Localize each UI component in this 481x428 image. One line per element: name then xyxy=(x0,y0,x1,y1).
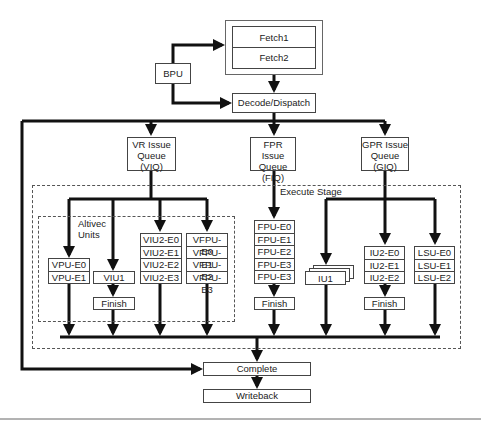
vfpu-pipeline: VFPU-E0 VFPU-E1 VFPU-E2 VFPU-E3 xyxy=(186,233,228,284)
lsu-stage: LSU-E0 xyxy=(415,247,454,260)
complete-box: Complete xyxy=(203,362,311,376)
vpu-pipeline: VPU-E0 VPU-E1 xyxy=(48,258,90,284)
viu1-pipeline: VIU1 xyxy=(93,271,135,284)
viu2-stage: VIU2-E3 xyxy=(141,272,181,285)
fpu-stage: FPU-E3 xyxy=(255,259,294,272)
viu2-stage: VIU2-E2 xyxy=(141,259,181,272)
fpu-stage: FPU-E0 xyxy=(255,221,294,234)
fpu-stage: FPU-E3 xyxy=(255,271,294,284)
altivec-label-line-2: Units xyxy=(78,229,106,240)
iu2-stage: IU2-E2 xyxy=(365,272,404,285)
gpr-issue-queue: GPR Issue Queue (GIQ) xyxy=(361,137,409,171)
iu2-pipeline: IU2-E0 IU2-E1 IU2-E2 xyxy=(364,246,405,284)
vpu-stage: VPU-E0 xyxy=(49,259,89,272)
viq-line-2: Queue xyxy=(128,150,175,161)
iu1-stage: IU1 xyxy=(306,272,345,285)
writeback-box: Writeback xyxy=(203,389,311,403)
viu2-stage: VIU2-E1 xyxy=(141,247,181,260)
fetch-stages: Fetch1 Fetch2 xyxy=(232,26,316,69)
vfpu-stage: VFPU-E3 xyxy=(187,272,227,285)
fiq-line-2: Queue xyxy=(251,161,295,172)
viq-line-1: VR Issue xyxy=(128,139,175,150)
fpu-stage: FPU-E1 xyxy=(255,234,294,247)
execute-stage-label: Execute Stage xyxy=(278,186,344,197)
altivec-units-label: Altivec Units xyxy=(78,218,106,240)
iu2-stage: IU2-E1 xyxy=(365,260,404,273)
fiq-line-3: (FIQ) xyxy=(251,172,295,183)
viu2-pipeline: VIU2-E0 VIU2-E1 VIU2-E2 VIU2-E3 xyxy=(140,233,182,284)
iu2-stage: IU2-E0 xyxy=(365,247,404,260)
bpu-box: BPU xyxy=(155,63,191,84)
giq-line-2: Queue xyxy=(362,150,408,161)
vfpu-stage: VFPU-E1 xyxy=(187,247,227,260)
giq-line-1: GPR Issue xyxy=(362,139,408,150)
viq-line-3: (VIQ) xyxy=(128,161,175,172)
fiq-line-1: FPR Issue xyxy=(251,139,295,161)
fpu-pipeline: FPU-E0 FPU-E1 FPU-E2 FPU-E3 FPU-E3 xyxy=(254,220,295,284)
lsu-stage: LSU-E2 xyxy=(415,272,454,285)
viu1-stage: VIU1 xyxy=(94,272,134,285)
iu1-pipeline: IU1 xyxy=(305,271,346,285)
fpu-finish: Finish xyxy=(254,297,295,310)
fetch-unit: Fetch1 Fetch2 xyxy=(225,20,323,75)
iu2-finish: Finish xyxy=(364,297,405,310)
giq-line-3: (GIQ) xyxy=(362,161,408,172)
fetch2-stage: Fetch2 xyxy=(233,48,315,68)
fetch1-stage: Fetch1 xyxy=(233,27,315,48)
vpu-stage: VPU-E1 xyxy=(49,272,89,285)
viu2-stage: VIU2-E0 xyxy=(141,234,181,247)
lsu-stage: LSU-E1 xyxy=(415,260,454,273)
fpu-stage: FPU-E2 xyxy=(255,246,294,259)
vr-issue-queue: VR Issue Queue (VIQ) xyxy=(127,137,176,171)
lsu-pipeline: LSU-E0 LSU-E1 LSU-E2 xyxy=(414,246,455,284)
fpr-issue-queue: FPR Issue Queue (FIQ) xyxy=(250,137,296,171)
viu1-finish: Finish xyxy=(93,297,135,310)
altivec-label-line-1: Altivec xyxy=(78,218,106,229)
vfpu-stage: VFPU-E2 xyxy=(187,259,227,272)
vfpu-stage: VFPU-E0 xyxy=(187,234,227,247)
decode-dispatch-box: Decode/Dispatch xyxy=(232,93,316,113)
